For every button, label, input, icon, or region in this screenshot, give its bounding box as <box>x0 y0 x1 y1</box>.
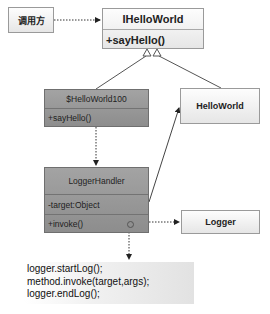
loggerhandler-methods: +invoke() <box>45 214 148 233</box>
ihelloworld-class: IHelloWorld +sayHello() <box>102 8 204 49</box>
hollow-triangle-icon <box>153 49 161 56</box>
ihelloworld-methods: +sayHello() <box>103 29 203 49</box>
helloworld-name: HelloWorld <box>196 101 243 111</box>
proxy-methods: +sayHello() <box>45 108 148 127</box>
ihelloworld-header: IHelloWorld <box>103 9 203 29</box>
ihelloworld-name: IHelloWorld <box>123 13 184 25</box>
loggerhandler-attributes: -target:Object <box>45 194 148 214</box>
ihelloworld-method: +sayHello() <box>106 34 165 46</box>
code-line: logger.endLog(); <box>27 288 194 301</box>
proxy-header: $HelloWorld100 <box>45 90 148 108</box>
logger-class: Logger <box>181 210 260 234</box>
note-anchor-circle-icon <box>127 221 134 228</box>
caller-label: 调用方 <box>18 14 45 27</box>
code-line: method.invoke(target,args); <box>27 276 194 289</box>
proxy-method: +sayHello() <box>48 113 91 123</box>
edge-proxy-to-ihelloworld <box>96 56 146 89</box>
proxy-name: $HelloWorld100 <box>66 94 126 104</box>
proxy-class: $HelloWorld100 +sayHello() <box>44 89 149 127</box>
code-note: logger.startLog(); method.invoke(target,… <box>24 262 194 304</box>
helloworld-class: HelloWorld <box>180 88 260 124</box>
edge-helloworld-to-ihelloworld <box>159 56 221 88</box>
loggerhandler-attribute: -target:Object <box>48 200 100 210</box>
edge-loggerhandler-to-helloworld <box>149 108 179 202</box>
hollow-triangle-icon <box>143 49 151 56</box>
loggerhandler-header: LoggerHandler <box>45 168 148 194</box>
loggerhandler-method: +invoke() <box>48 219 83 229</box>
logger-name: Logger <box>205 217 236 227</box>
loggerhandler-name: LoggerHandler <box>68 176 124 186</box>
loggerhandler-class: LoggerHandler -target:Object +invoke() <box>44 167 149 233</box>
code-line: logger.startLog(); <box>27 263 194 276</box>
caller-box: 调用方 <box>8 7 54 33</box>
